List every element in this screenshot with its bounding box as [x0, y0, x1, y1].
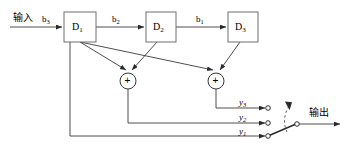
wire-d3-to-adder2 [220, 42, 240, 70]
output-y3-sub: 3 [243, 101, 246, 108]
signal-b2-sub: 2 [117, 18, 120, 25]
terminal-y3 [266, 106, 271, 111]
switch-wiper-arm [268, 124, 296, 136]
output-label: 输出 [309, 108, 329, 118]
signal-label-b1: b1 [196, 15, 204, 24]
wire-d1-to-adder1 [80, 42, 126, 70]
signal-b3-name: b [42, 14, 47, 24]
output-y2-sub: 2 [243, 116, 246, 123]
terminal-y2 [266, 121, 271, 126]
block-label-d2: D2 [153, 22, 164, 32]
adder-2-plus-symbol: + [213, 76, 219, 86]
signal-b1-name: b [196, 14, 201, 24]
input-label: 输入 [13, 13, 33, 23]
wire-d2-to-adder1 [132, 42, 157, 70]
block-label-d1: D1 [72, 22, 83, 32]
terminal-switch-pole [295, 122, 300, 127]
switch-rotation-arrow-icon [285, 99, 295, 111]
output-y1-sub: 1 [243, 130, 246, 137]
output-label-y1: y1 [239, 127, 246, 136]
signal-label-b3: b3 [42, 15, 50, 24]
block-label-d3: D3 [235, 22, 246, 32]
wire-d1-to-y1 [70, 42, 265, 136]
output-label-y2: y2 [239, 113, 246, 122]
diagram-graphics [0, 0, 354, 150]
terminal-y1 [266, 134, 271, 139]
wire-d1-to-adder2 [80, 42, 213, 70]
signal-b3-sub: 3 [47, 18, 50, 25]
diagram-canvas: + + 输入 输出 b3 b2 b1 D1 D2 D3 y3 y2 y1 [0, 0, 354, 150]
signal-b2-name: b [112, 14, 117, 24]
signal-b1-sub: 1 [201, 18, 204, 25]
block-d1-sub: 1 [79, 26, 83, 34]
output-label-y3: y3 [239, 98, 246, 107]
adder-1-plus-symbol: + [125, 76, 131, 86]
signal-label-b2: b2 [112, 15, 120, 24]
block-d2-sub: 2 [160, 26, 164, 34]
block-d3-sub: 3 [242, 26, 246, 34]
